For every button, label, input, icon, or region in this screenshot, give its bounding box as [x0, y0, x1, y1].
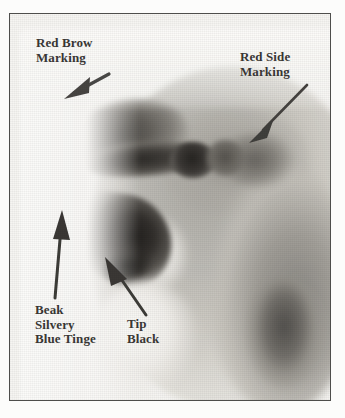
arrow-beak-silvery-blue-tinge	[53, 210, 70, 298]
photo-frame: Red Brow Marking Red Side Marking Beak S…	[9, 13, 331, 401]
arrow-tip-black	[105, 257, 146, 315]
annotation-arrows	[10, 14, 331, 401]
arrow-red-brow-marking	[64, 74, 109, 99]
arrow-red-side-marking	[249, 85, 307, 143]
annotation-layer: Red Brow Marking Red Side Marking Beak S…	[10, 14, 330, 400]
figure-container: Red Brow Marking Red Side Marking Beak S…	[0, 0, 345, 418]
